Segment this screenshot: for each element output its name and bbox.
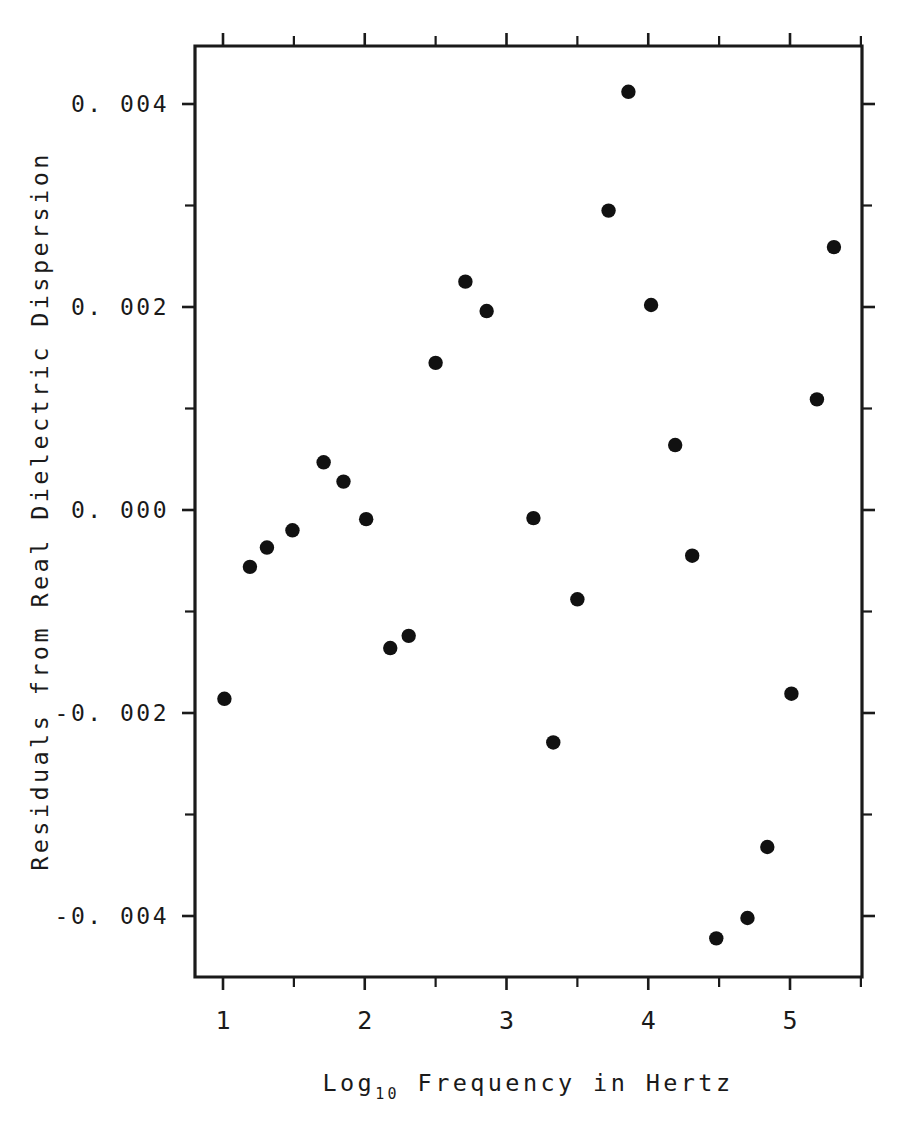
axes-frame [195, 46, 862, 977]
data-point [401, 629, 415, 643]
data-point [644, 298, 658, 312]
data-point [336, 474, 350, 488]
data-point [668, 438, 682, 452]
y-axis-ticks [182, 104, 875, 916]
data-point [740, 911, 754, 925]
x-axis-title-subscript: 10 [375, 1085, 400, 1103]
y-tick-label: 0. 000 [71, 497, 169, 523]
data-point [760, 840, 774, 854]
x-axis-tick-labels: 12345 [215, 1006, 797, 1035]
data-point [685, 548, 699, 562]
data-point [621, 85, 635, 99]
y-tick-label: -0. 002 [55, 700, 169, 726]
data-point [784, 687, 798, 701]
x-tick-label: 4 [641, 1006, 656, 1035]
y-tick-label: -0. 004 [55, 903, 169, 929]
y-tick-label: 0. 004 [71, 91, 169, 117]
data-point [285, 523, 299, 537]
data-point [546, 735, 560, 749]
data-point [458, 274, 472, 288]
y-tick-label: 0. 002 [71, 294, 169, 320]
data-point [243, 560, 257, 574]
data-point [601, 203, 615, 217]
x-tick-label: 5 [782, 1006, 797, 1035]
data-point [316, 455, 330, 469]
x-axis-title: Log10 Frequency in Hertz [323, 1069, 734, 1103]
scatter-plot: 12345 -0. 004-0. 0020. 0000. 0020. 004 R… [0, 0, 904, 1132]
data-point [479, 304, 493, 318]
data-point [526, 511, 540, 525]
data-point [827, 240, 841, 254]
y-axis-tick-labels: -0. 004-0. 0020. 0000. 0020. 004 [55, 91, 169, 929]
x-tick-label: 3 [499, 1006, 514, 1035]
data-point [570, 592, 584, 606]
x-tick-label: 1 [215, 1006, 230, 1035]
data-point [428, 356, 442, 370]
x-axis-title-base: Log [323, 1069, 376, 1097]
data-point [383, 641, 397, 655]
figure-container: 12345 -0. 004-0. 0020. 0000. 0020. 004 R… [0, 0, 904, 1132]
data-point [260, 540, 274, 554]
x-axis-title-rest: Frequency in Hertz [400, 1069, 733, 1097]
data-point [359, 512, 373, 526]
data-point [810, 392, 824, 406]
data-point [709, 931, 723, 945]
data-point [217, 692, 231, 706]
y-axis-title: Residuals from Real Dielectric Dispersio… [26, 151, 54, 870]
x-tick-label: 2 [357, 1006, 372, 1035]
data-point-series [217, 85, 841, 946]
